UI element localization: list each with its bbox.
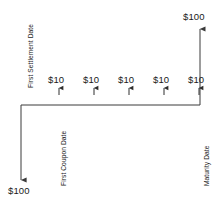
coupon-amount-label: $10 (188, 75, 204, 85)
final-inflow-amount-label: $100 (183, 12, 205, 22)
coupon-amount-label: $10 (153, 75, 169, 85)
coupon-amount-label: $10 (48, 75, 64, 85)
coupon-arrow-group (59, 88, 199, 95)
maturity-date-label: Maturity Date (204, 145, 211, 186)
initial-outflow-amount-label: $100 (8, 186, 30, 196)
first-settlement-date-label: First Settlement Date (28, 24, 35, 88)
diagram-canvas: $10 $10 $10 $10 $10 $100 $100 First Sett… (0, 0, 218, 206)
first-coupon-date-label: First Coupon Date (61, 131, 68, 186)
coupon-amount-label: $10 (83, 75, 99, 85)
coupon-amount-label: $10 (118, 75, 134, 85)
